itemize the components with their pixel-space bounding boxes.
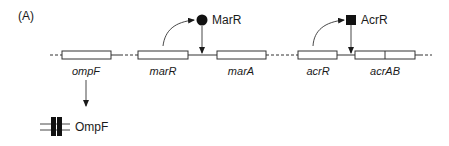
gene-label-marA: marA	[228, 65, 254, 77]
panel-label: (A)	[18, 9, 34, 23]
curved-arrow-expression-marR	[163, 20, 194, 46]
gene-label-acrAB: acrAB	[370, 65, 400, 77]
ompF-porin-icon	[40, 117, 70, 136]
marR-protein-circle-icon	[197, 15, 208, 26]
protein-label-MarR: MarR	[212, 13, 242, 27]
gene-acrAB: acrAB	[355, 51, 415, 77]
gene-marR: marR	[138, 51, 188, 77]
acrR-protein-square-icon	[346, 15, 356, 25]
gene-marA: marA	[217, 51, 266, 77]
gene-label-acrR: acrR	[306, 65, 329, 77]
marR-regulation: MarR	[163, 13, 242, 53]
curved-arrow-expression-acrR	[313, 20, 344, 46]
gene-box-acrR	[298, 51, 337, 59]
gene-regulation-diagram: (A) ompF marR marA acrR acrAB MarR	[0, 0, 449, 146]
protein-label-OmpF: OmpF	[75, 120, 108, 134]
gene-label-marR: marR	[150, 65, 177, 77]
acrR-regulation: AcrR	[313, 13, 388, 53]
gene-box-marR	[138, 51, 188, 59]
gene-box-marA	[217, 51, 266, 59]
ompF-expression: OmpF	[40, 80, 108, 136]
protein-label-AcrR: AcrR	[361, 13, 388, 27]
gene-label-ompF: ompF	[72, 65, 101, 77]
gene-ompF: ompF	[62, 51, 111, 77]
gene-acrR: acrR	[298, 51, 337, 77]
gene-box-ompF	[62, 51, 111, 59]
